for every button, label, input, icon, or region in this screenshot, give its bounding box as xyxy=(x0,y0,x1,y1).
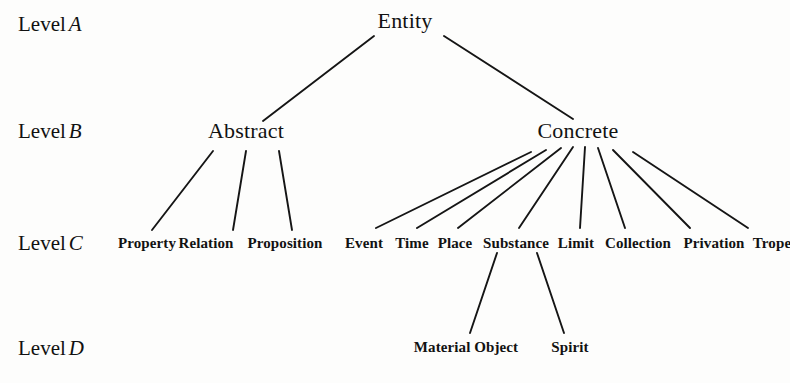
diagram-canvas: LevelALevelBLevelCLevelD EntityAbstractC… xyxy=(0,0,790,383)
node-relation[interactable]: Relation xyxy=(179,236,234,251)
node-place[interactable]: Place xyxy=(438,236,473,251)
edge-concrete-to-limit xyxy=(580,147,585,228)
node-spirit[interactable]: Spirit xyxy=(551,340,588,355)
node-time[interactable]: Time xyxy=(395,236,428,251)
node-proposition[interactable]: Proposition xyxy=(247,236,322,251)
node-material-object[interactable]: Material Object xyxy=(414,340,518,355)
level-label-letter: A xyxy=(66,12,82,36)
edge-concrete-to-place xyxy=(458,148,561,228)
level-label-letter: D xyxy=(66,336,84,360)
edge-abstract-to-relation xyxy=(233,151,246,230)
edge-substance-to-material-object xyxy=(470,253,497,333)
node-privation[interactable]: Privation xyxy=(684,236,745,251)
level-label-letter: C xyxy=(66,231,83,255)
edge-substance-to-spirit xyxy=(537,253,564,333)
level-label-a: LevelA xyxy=(18,14,82,35)
edge-abstract-to-property xyxy=(152,151,213,230)
edge-entity-to-abstract xyxy=(263,36,374,121)
node-entity[interactable]: Entity xyxy=(378,10,433,32)
level-label-prefix: Level xyxy=(18,231,66,255)
edge-abstract-to-proposition xyxy=(279,151,292,230)
node-substance[interactable]: Substance xyxy=(483,236,549,251)
level-label-b: LevelB xyxy=(18,121,82,142)
edge-concrete-to-collection xyxy=(598,148,625,228)
node-trope[interactable]: Trope xyxy=(753,236,790,251)
node-limit[interactable]: Limit xyxy=(558,236,594,251)
edge-concrete-to-time xyxy=(417,150,546,228)
edge-concrete-to-trope xyxy=(633,152,748,228)
edge-concrete-to-event xyxy=(376,152,531,228)
level-label-d: LevelD xyxy=(18,338,84,359)
level-label-letter: B xyxy=(66,119,82,143)
level-label-c: LevelC xyxy=(18,233,83,254)
edge-concrete-to-substance xyxy=(519,147,573,228)
node-property[interactable]: Property xyxy=(118,236,176,251)
edge-concrete-to-privation xyxy=(613,150,690,228)
edge-layer xyxy=(0,0,790,383)
level-label-prefix: Level xyxy=(18,12,66,36)
level-label-prefix: Level xyxy=(18,119,66,143)
node-abstract[interactable]: Abstract xyxy=(208,120,284,142)
node-collection[interactable]: Collection xyxy=(605,236,671,251)
edge-entity-to-concrete xyxy=(444,36,573,119)
node-event[interactable]: Event xyxy=(345,236,383,251)
node-concrete[interactable]: Concrete xyxy=(537,120,618,142)
level-label-prefix: Level xyxy=(18,336,66,360)
